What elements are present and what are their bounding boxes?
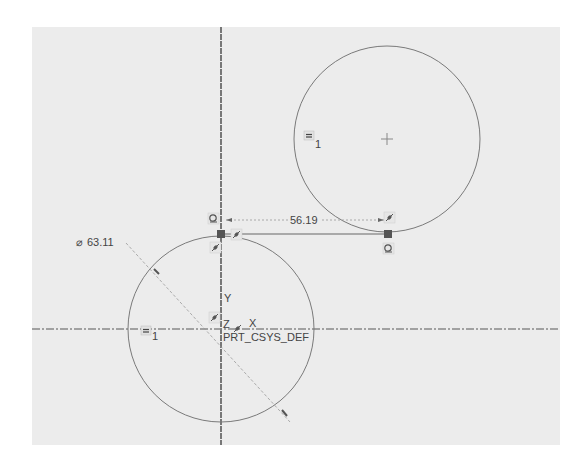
csys-y-label: Y	[224, 292, 232, 304]
equal-constraint-index-left: 1	[152, 330, 158, 342]
center-mark-icon	[381, 133, 393, 145]
point-on-entity-icon[interactable]	[231, 229, 242, 240]
csys-name[interactable]: PRT_CSYS_DEF	[223, 331, 309, 343]
sketch-drawing: 56.19 ⌀ 63.11	[0, 0, 587, 468]
csys-x-label: X	[249, 317, 257, 329]
point-on-entity-icon[interactable]	[209, 312, 220, 323]
equal-constraint-index-right: 1	[315, 138, 321, 150]
point-on-entity-icon[interactable]	[210, 242, 221, 253]
point-on-entity-icon[interactable]	[384, 212, 395, 223]
diameter-symbol: ⌀	[76, 236, 83, 248]
diameter-value[interactable]: 63.11	[87, 236, 114, 248]
tangent-icon[interactable]	[383, 243, 394, 254]
tangent-point-left[interactable]	[217, 230, 225, 238]
distance-dimension[interactable]: 56.19	[226, 214, 384, 226]
csys-z-label: Z	[223, 318, 230, 330]
tangent-icon[interactable]	[208, 213, 219, 224]
equal-radius-icon[interactable]	[141, 326, 151, 335]
tangent-point-right[interactable]	[384, 230, 392, 238]
distance-value[interactable]: 56.19	[290, 214, 318, 226]
equal-radius-icon[interactable]	[304, 131, 314, 140]
